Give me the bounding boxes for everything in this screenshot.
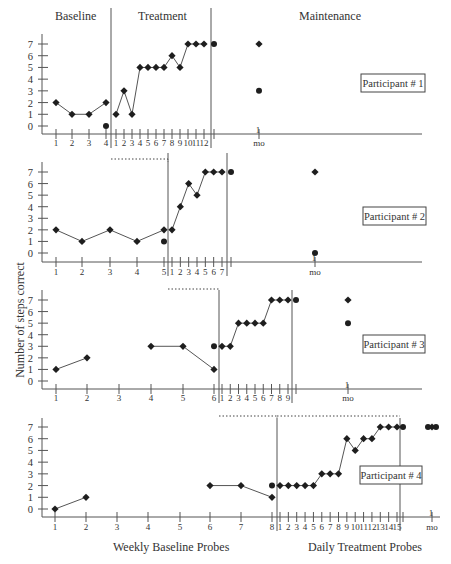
x-tick-label: 7	[328, 522, 333, 532]
data-point-marker	[177, 203, 184, 210]
x-axis-title-treatment: Daily Treatment Probes	[308, 540, 422, 554]
data-point-marker	[82, 494, 89, 501]
data-point-marker	[269, 483, 275, 489]
panel-participant-2: 012345671234512345671moParticipant # 2	[28, 153, 426, 277]
data-point-marker	[179, 343, 186, 350]
x-tick-label: 4	[303, 522, 308, 532]
data-point-marker	[120, 87, 127, 94]
data-point-marker	[147, 343, 154, 350]
x-tick-label: 3	[130, 138, 135, 148]
maintenance-tick-label: mo	[342, 393, 354, 403]
x-tick-label: 1	[220, 393, 225, 403]
y-tick-label: 5	[28, 445, 33, 456]
data-point-marker	[343, 435, 350, 442]
maintenance-tick-number: 1	[256, 125, 261, 135]
y-tick-label: 4	[28, 74, 34, 85]
panel-participant-4: 01234567123456781234567891011121314151mo…	[28, 418, 440, 532]
y-tick-label: 5	[28, 190, 33, 201]
data-point-marker	[68, 111, 75, 118]
data-point-marker	[152, 64, 159, 71]
x-tick-label: 1	[54, 267, 59, 277]
participant-label: Participant # 2	[364, 211, 425, 222]
x-tick-label: 6	[212, 393, 217, 403]
x-tick-label: 4	[146, 522, 151, 532]
data-point-marker	[301, 482, 308, 489]
phase-connector-1-2	[111, 159, 168, 162]
data-point-marker	[284, 296, 291, 303]
data-point-marker	[311, 168, 318, 175]
x-tick-label: 9	[345, 522, 350, 532]
x-tick-label: 2	[286, 522, 291, 532]
data-point-marker	[176, 64, 183, 71]
y-axis-title: Number of steps correct	[13, 262, 27, 378]
data-point-marker	[425, 424, 431, 430]
x-tick-label: 1	[53, 522, 58, 532]
x-tick-label: 4	[138, 138, 143, 148]
x-tick-label: 4	[104, 138, 109, 148]
data-point-marker	[293, 297, 299, 303]
data-point-marker	[184, 40, 191, 47]
x-tick-label: 3	[294, 522, 299, 532]
data-point-marker	[327, 470, 334, 477]
panel-participant-1: 0123456712341234567891011121moParticipan…	[28, 8, 425, 148]
x-tick-label: 4	[149, 393, 154, 403]
data-point-marker	[133, 238, 140, 245]
x-tick-label: 2	[178, 267, 183, 277]
data-point-marker	[168, 52, 175, 59]
data-point-marker	[193, 192, 200, 199]
y-tick-label: 2	[28, 98, 33, 109]
data-point-marker	[377, 423, 384, 430]
participant-label: Participant # 3	[363, 339, 424, 350]
maintenance-tick-label: mo	[309, 267, 321, 277]
y-tick-label: 1	[28, 236, 33, 247]
y-tick-label: 0	[28, 504, 33, 515]
data-point-marker	[312, 250, 318, 256]
data-point-marker	[276, 296, 283, 303]
y-tick-label: 2	[28, 225, 33, 236]
participant-label: Participant # 4	[360, 470, 422, 481]
y-tick-label: 6	[28, 434, 33, 445]
x-tick-label: 5	[181, 393, 186, 403]
x-tick-label: 1	[114, 138, 119, 148]
x-tick-label: 2	[80, 267, 85, 277]
data-point-marker	[52, 226, 59, 233]
x-tick-label: 1	[54, 138, 59, 148]
data-point-marker	[227, 343, 234, 350]
data-point-marker	[192, 40, 199, 47]
data-point-marker	[136, 64, 143, 71]
phase-headers: BaselineTreatmentMaintenance	[55, 9, 361, 23]
data-point-marker	[255, 40, 262, 47]
x-axis-title-baseline: Weekly Baseline Probes	[113, 540, 230, 554]
participant-label: Participant # 1	[362, 78, 423, 89]
baseline-series-line	[56, 103, 106, 115]
x-tick-label: 6	[154, 138, 159, 148]
x-tick-label: 2	[70, 138, 75, 148]
data-point-marker	[400, 424, 406, 430]
y-tick-label: 1	[28, 109, 33, 120]
x-tick-label: 3	[115, 522, 120, 532]
data-point-marker	[360, 435, 367, 442]
x-tick-label: 1	[170, 267, 175, 277]
data-point-marker	[433, 424, 439, 430]
y-tick-label: 7	[28, 295, 33, 306]
data-point-marker	[335, 470, 342, 477]
x-tick-label: 5	[146, 138, 151, 148]
y-tick-label: 1	[28, 492, 33, 503]
x-tick-label: 8	[336, 522, 341, 532]
y-tick-label: 3	[28, 213, 33, 224]
x-tick-label: 6	[211, 267, 216, 277]
baseline-series-line	[56, 358, 87, 370]
y-tick-label: 4	[28, 457, 34, 468]
data-point-marker	[52, 99, 59, 106]
data-point-marker	[243, 320, 250, 327]
x-tick-label: 6	[208, 522, 213, 532]
data-point-marker	[168, 226, 175, 233]
data-point-marker	[293, 482, 300, 489]
x-tick-label: 4	[245, 393, 250, 403]
x-tick-label: 2	[228, 393, 233, 403]
data-point-marker	[206, 482, 213, 489]
data-point-marker	[211, 343, 217, 349]
maintenance-tick-number: 1	[345, 380, 350, 390]
x-tick-label: 3	[236, 393, 241, 403]
data-point-marker	[268, 296, 275, 303]
